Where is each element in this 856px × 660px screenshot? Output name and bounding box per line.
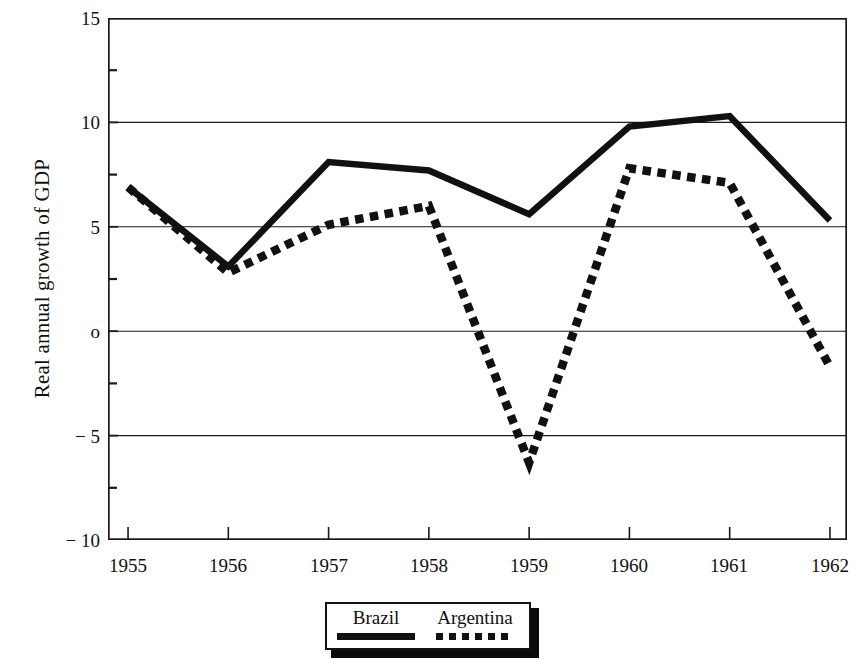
legend-entry-argentina: Argentina [423, 607, 527, 640]
x-tick-label-1956: 1956 [183, 556, 273, 575]
x-tick-label-1958: 1958 [384, 556, 474, 575]
axis-frame-rect [109, 19, 846, 539]
legend-swatch-dotted-line-icon [436, 633, 514, 640]
x-tick-label-1962: 1962 [785, 556, 856, 575]
x-tick-label-1955: 1955 [83, 556, 173, 575]
plot-area [108, 18, 847, 540]
x-tick-label-1959: 1959 [484, 556, 574, 575]
legend-swatch-solid-line-icon [337, 633, 415, 640]
series-line-brazil [128, 116, 830, 266]
gridlines [108, 122, 847, 435]
axis-frame [109, 19, 846, 539]
legend-entry-brazil: Brazil [333, 607, 419, 640]
series-line-argentina [128, 168, 830, 462]
x-tick-label-1957: 1957 [284, 556, 374, 575]
legend-label-argentina: Argentina [423, 607, 527, 629]
chart-figure: Real annual growth of GDP 15 10 5 o − 5 … [0, 0, 856, 660]
x-tick-label-1960: 1960 [584, 556, 674, 575]
polyline-brazil [128, 116, 830, 266]
polyline-argentina [128, 168, 830, 462]
legend-label-brazil: Brazil [333, 607, 419, 629]
legend-box: Brazil Argentina [325, 602, 531, 650]
x-axis-ticks [128, 527, 830, 540]
x-tick-label-1961: 1961 [684, 556, 774, 575]
chart-legend: Brazil Argentina [325, 602, 533, 652]
plot-canvas [108, 18, 847, 540]
